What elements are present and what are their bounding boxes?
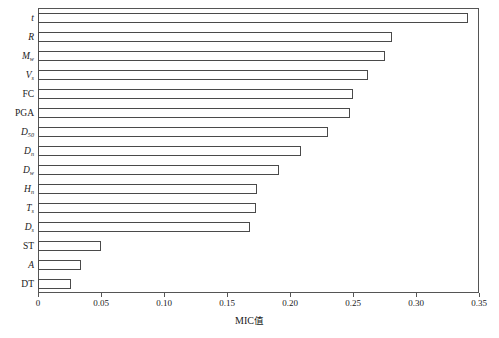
x-tick-mark xyxy=(353,293,354,297)
bar-Hn xyxy=(38,184,257,194)
bar-Dw xyxy=(38,165,279,175)
bar-A xyxy=(38,260,81,270)
y-axis-label-Hn: Hn xyxy=(0,184,34,195)
y-axis-label-FC: FC xyxy=(0,89,34,99)
x-tick-label-0: 0 xyxy=(18,298,58,308)
y-axis-label-Vs: Vs xyxy=(0,70,34,81)
y-axis-label-A: A xyxy=(0,260,34,270)
bar-R xyxy=(38,32,392,42)
x-tick-label-0.25: 0.25 xyxy=(333,298,373,308)
bar-PGA xyxy=(38,108,350,118)
bar-D50 xyxy=(38,127,328,137)
x-tick-label-0.20: 0.20 xyxy=(270,298,310,308)
x-axis-title-cjk: 值 xyxy=(254,315,264,326)
y-axis-label-Dw: Dw xyxy=(0,165,34,176)
bar-Dn xyxy=(38,146,301,156)
x-tick-mark xyxy=(38,293,39,297)
bar-Ds xyxy=(38,222,250,232)
x-tick-label-0.30: 0.30 xyxy=(396,298,436,308)
bar-FC xyxy=(38,89,353,99)
x-tick-mark xyxy=(416,293,417,297)
y-axis-label-t: t xyxy=(0,13,34,23)
x-tick-mark xyxy=(101,293,102,297)
mic-bar-chart-figure: tRMwVsFCPGAD50DnDwHnTsDsSTADT 00.050.100… xyxy=(0,0,499,338)
x-tick-label-0.35: 0.35 xyxy=(459,298,499,308)
y-axis-label-R: R xyxy=(0,32,34,42)
x-tick-label-0.05: 0.05 xyxy=(81,298,121,308)
x-tick-mark xyxy=(164,293,165,297)
y-axis-label-D50: D50 xyxy=(0,127,34,138)
x-tick-label-0.15: 0.15 xyxy=(207,298,247,308)
x-tick-mark xyxy=(290,293,291,297)
bar-DT xyxy=(38,279,71,289)
x-tick-label-0.10: 0.10 xyxy=(144,298,184,308)
x-axis-title: MIC值 xyxy=(0,313,499,327)
bar-Vs xyxy=(38,70,368,80)
y-axis-label-DT: DT xyxy=(0,279,34,289)
x-axis-title-latin: MIC xyxy=(235,315,254,326)
y-axis-label-Dn: Dn xyxy=(0,146,34,157)
y-axis-label-ST: ST xyxy=(0,241,34,251)
bar-Mw xyxy=(38,51,385,61)
x-tick-mark xyxy=(227,293,228,297)
bar-t xyxy=(38,13,468,23)
x-tick-mark xyxy=(479,293,480,297)
y-axis-label-Ds: Ds xyxy=(0,222,34,233)
bar-Ts xyxy=(38,203,256,213)
y-axis-label-PGA: PGA xyxy=(0,108,34,118)
y-axis-label-Ts: Ts xyxy=(0,203,34,214)
y-axis-label-Mw: Mw xyxy=(0,51,34,62)
bar-ST xyxy=(38,241,101,251)
